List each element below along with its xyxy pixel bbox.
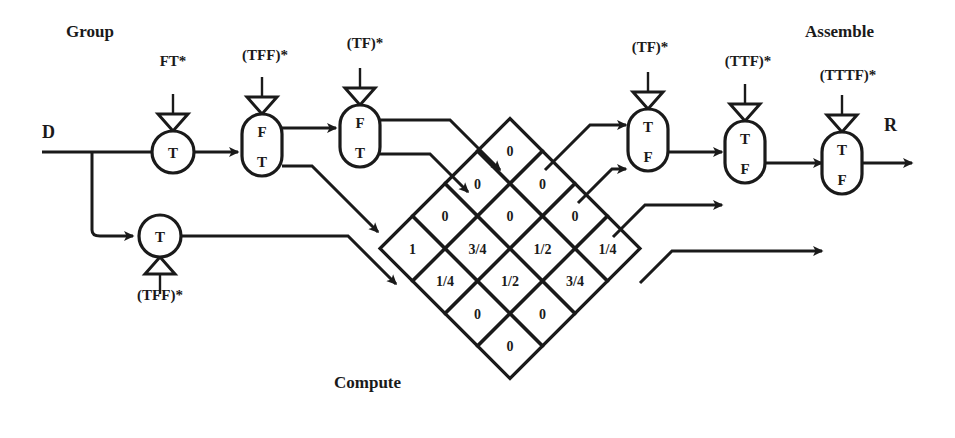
port-label-ttf: (TTF)* [725, 53, 772, 70]
wire-d-branch-to-g4 [92, 152, 133, 236]
wire-grid-to-a1-top [545, 125, 626, 170]
node-label: T [155, 229, 165, 245]
compute-cell-value: 0 [474, 177, 481, 192]
compute-cell-value: 0 [539, 177, 546, 192]
node-assemble-a1[interactable]: TF [628, 72, 668, 171]
wire-grid-to-a3-bottom [640, 251, 822, 283]
port-triangle-icon [145, 257, 175, 274]
node-label-bottom: F [837, 172, 846, 188]
wire-grid-to-a1-bottom [578, 169, 626, 203]
compute-cell-value: 1 [409, 242, 416, 257]
compute-cell-value: 1/2 [534, 242, 552, 257]
compute-cell-value: 1/4 [599, 242, 617, 257]
node-label-top: T [740, 131, 750, 147]
label-group: Group [66, 22, 114, 41]
port-triangle-icon [827, 115, 857, 132]
port-label-tff-upper: (TFF)* [242, 47, 288, 64]
node-label: T [168, 145, 178, 161]
port-triangle-icon [633, 92, 663, 109]
wire-grid-to-a2-bottom [613, 205, 722, 237]
port-triangle-icon [247, 97, 277, 114]
node-label-top: F [355, 115, 364, 131]
label-output-r: R [884, 115, 898, 135]
port-label-tf-left: (TF)* [347, 35, 384, 52]
compute-cell-value: 0 [442, 209, 449, 224]
node-label-top: T [643, 119, 653, 135]
wire-g2-to-grid [282, 166, 378, 232]
node-group-g1[interactable]: T [152, 94, 194, 173]
port-label-ft: FT* [160, 53, 187, 69]
port-label-tttf: (TTTF)* [820, 67, 877, 84]
port-triangle-icon [158, 114, 188, 131]
compute-cell-value: 0 [507, 209, 514, 224]
compute-cell-value: 1/4 [436, 274, 454, 289]
port-triangle-icon [730, 104, 760, 121]
label-input-d: D [42, 122, 55, 142]
compute-cell-value: 0 [539, 307, 546, 322]
systolic-array-diagram: Group Assemble Compute D R FT* (TFF)* (T… [0, 0, 955, 438]
node-group-g2[interactable]: FT [242, 77, 282, 176]
label-assemble: Assemble [805, 22, 874, 41]
label-compute: Compute [334, 373, 402, 392]
node-assemble-a3[interactable]: TF [822, 95, 862, 194]
diagram-root: Group Assemble Compute D R FT* (TFF)* (T… [0, 0, 955, 438]
compute-cell-value: 0 [507, 144, 514, 159]
port-triangle-icon [345, 88, 375, 105]
node-assemble-a2[interactable]: TF [725, 84, 765, 183]
node-label-bottom: T [257, 154, 267, 170]
node-group-g3[interactable]: FT [340, 68, 380, 167]
node-label-bottom: F [643, 149, 652, 165]
compute-cell-value: 0 [474, 307, 481, 322]
compute-cell-value: 3/4 [566, 274, 584, 289]
node-group-g4[interactable]: T [139, 215, 181, 294]
compute-cell-value: 0 [507, 339, 514, 354]
node-label-top: T [837, 142, 847, 158]
node-label-bottom: F [740, 161, 749, 177]
node-label-bottom: T [355, 145, 365, 161]
compute-cell-value: 3/4 [469, 242, 487, 257]
node-label-top: F [257, 124, 266, 140]
compute-cell-value: 1/2 [501, 274, 519, 289]
compute-cell-value: 0 [572, 209, 579, 224]
port-label-tf-right: (TF)* [632, 39, 669, 56]
wire-g4-to-grid [181, 236, 396, 284]
